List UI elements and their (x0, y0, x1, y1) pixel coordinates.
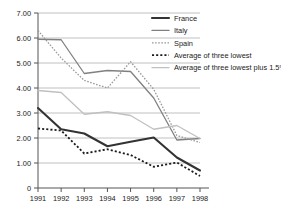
gridlines (38, 13, 200, 163)
y-axis-tick-label: 5.00 (17, 59, 31, 68)
y-axis-tick-label: 3.00 (17, 109, 31, 118)
x-axis-tick-label: 1998 (192, 194, 208, 203)
x-axis-tick-label: 1995 (122, 194, 138, 203)
x-axis-tick-label: 1993 (76, 194, 92, 203)
legend-label-0: France (174, 14, 197, 23)
y-axis-tick-label: 4.00 (17, 84, 31, 93)
x-axis-tick-label: 1997 (169, 194, 185, 203)
x-axis-tick-labels: 19911992199319941995199619971998 (30, 194, 208, 203)
y-axis-tick-label: 6.00 (17, 34, 31, 43)
x-axis-tick-label: 1991 (30, 194, 46, 203)
series-line-0 (38, 108, 200, 171)
x-axis-tick-label: 1992 (53, 194, 69, 203)
line-chart: 01.002.003.004.005.006.007.00 1991199219… (0, 0, 281, 208)
legend-label-4: Average of three lowest plus 1.5% (174, 63, 281, 72)
series-line-4 (38, 91, 200, 139)
y-axis-tick-label: 7.00 (17, 9, 31, 18)
y-axis-tick-label: 2.00 (17, 134, 31, 143)
y-axis-tick-labels: 01.002.003.004.005.006.007.00 (17, 9, 38, 193)
x-axis-tick-label: 1996 (145, 194, 161, 203)
x-axis-ticks (38, 188, 200, 192)
y-axis-tick-label: 1.00 (17, 159, 31, 168)
x-axis-tick-label: 1994 (99, 194, 115, 203)
legend-label-2: Spain (174, 39, 193, 48)
legend-label-3: Average of three lowest (174, 51, 252, 60)
chart-canvas: 01.002.003.004.005.006.007.00 1991199219… (0, 0, 281, 208)
chart-legend: FranceItalySpainAverage of three lowestA… (152, 14, 281, 73)
legend-label-1: Italy (174, 26, 188, 35)
y-axis-tick-label: 0 (27, 184, 31, 193)
series-line-3 (38, 129, 200, 177)
